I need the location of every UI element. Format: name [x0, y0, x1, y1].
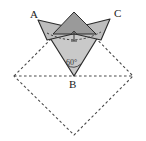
top-cap-shape — [53, 12, 96, 34]
figure-canvas: A C B 60° — [0, 0, 146, 141]
top-cap — [53, 12, 96, 34]
label-vertex-c: C — [114, 7, 121, 19]
geometry-figure: A C B 60° — [0, 0, 146, 141]
label-vertex-a: A — [30, 8, 38, 20]
label-vertex-b: B — [69, 78, 76, 90]
label-angle-b: 60° — [66, 58, 77, 67]
